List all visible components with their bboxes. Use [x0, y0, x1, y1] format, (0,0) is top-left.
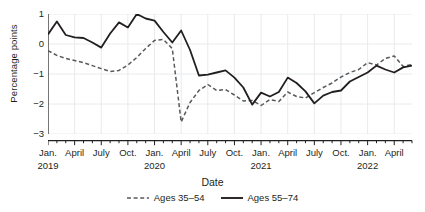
chart-legend: Ages 35–54Ages 55–74	[0, 192, 425, 203]
legend-item-2[interactable]: Ages 55–74	[221, 192, 299, 203]
x-axis-line	[48, 140, 422, 148]
y-tick-label: −1	[22, 69, 44, 79]
legend-item-1[interactable]: Ages 35–54	[127, 192, 205, 203]
legend-label: Ages 55–74	[248, 192, 299, 203]
legend-label: Ages 35–54	[154, 192, 205, 203]
chart-figure: Percentage points 10−1−2−3 Jan.2019April…	[0, 0, 425, 212]
series-line-2	[48, 14, 412, 105]
x-tick-year-label: 2020	[133, 160, 177, 171]
x-tick-year-label: 2022	[346, 160, 390, 171]
x-tick-label: April	[372, 147, 416, 158]
series-lines	[48, 14, 412, 122]
y-tick-label: −3	[22, 129, 44, 139]
chart-canvas	[48, 14, 412, 134]
dashed-line-icon	[127, 194, 149, 202]
plot-area	[48, 14, 412, 134]
x-axis-title: Date	[0, 176, 425, 188]
series-line-1	[48, 40, 412, 123]
x-tick-year-label: 2019	[26, 160, 70, 171]
solid-line-icon	[221, 194, 243, 202]
y-tick-label: 1	[22, 9, 44, 19]
y-tick-label: −2	[22, 99, 44, 109]
x-tick-year-label: 2021	[239, 160, 283, 171]
y-tick-label: 0	[22, 39, 44, 49]
